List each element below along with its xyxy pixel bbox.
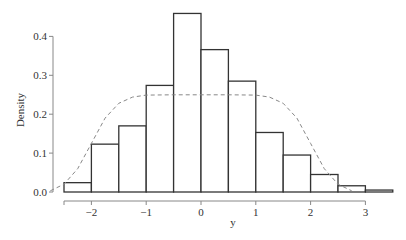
histogram-bar xyxy=(311,174,338,192)
histogram-bar xyxy=(365,190,392,192)
x-tick-label: 0 xyxy=(198,206,204,218)
x-axis-title: y xyxy=(230,216,236,228)
x-tick-label: 3 xyxy=(363,206,369,218)
x-tick-label: 2 xyxy=(308,206,314,218)
x-tick-label: −1 xyxy=(140,206,152,218)
histogram-bar xyxy=(64,183,91,192)
x-tick-label: 1 xyxy=(253,206,259,218)
y-tick-label: 0.0 xyxy=(33,186,47,198)
y-tick-label: 0.1 xyxy=(33,147,47,159)
histogram-bar xyxy=(91,144,118,192)
y-tick-label: 0.2 xyxy=(33,108,47,120)
histogram-bar xyxy=(146,85,173,192)
histogram-bar xyxy=(283,155,310,192)
y-axis: 0.00.10.20.30.4 xyxy=(33,30,53,198)
y-tick-label: 0.4 xyxy=(33,30,47,42)
histogram-bar xyxy=(119,126,146,192)
histogram-bar xyxy=(174,13,201,192)
histogram-bar xyxy=(228,81,255,192)
y-axis-title: Density xyxy=(14,92,26,127)
y-tick-label: 0.3 xyxy=(33,69,47,81)
histogram-bar xyxy=(338,186,365,192)
histogram-bar xyxy=(201,50,228,192)
x-axis: −2−10123 xyxy=(64,201,369,218)
histogram-bar xyxy=(256,132,283,192)
histogram-chart: 0.00.10.20.30.4 −2−10123 Density y xyxy=(0,0,406,240)
x-tick-label: −2 xyxy=(86,206,98,218)
bars-group xyxy=(64,13,393,192)
